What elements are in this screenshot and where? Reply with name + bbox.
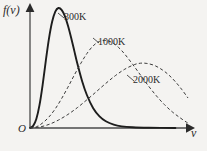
x-axis-label: v bbox=[191, 126, 196, 141]
origin-label: O bbox=[18, 122, 26, 134]
curve-1000k bbox=[30, 40, 188, 128]
y-axis-arrowhead bbox=[26, 3, 35, 12]
leader-lines-group bbox=[58, 13, 134, 81]
curve-label-1000k: 1000K bbox=[98, 36, 125, 47]
y-axis-label: f(v) bbox=[3, 3, 20, 18]
curve-300k bbox=[30, 8, 175, 128]
curve-label-2000k: 2000K bbox=[133, 74, 160, 85]
curves-group bbox=[30, 8, 188, 128]
curve-2000k bbox=[30, 63, 188, 128]
distribution-chart-figure: f(v) v O 300K 1000K 2000K bbox=[0, 0, 207, 151]
curve-label-300k: 300K bbox=[64, 11, 86, 22]
plot-canvas bbox=[0, 0, 207, 151]
